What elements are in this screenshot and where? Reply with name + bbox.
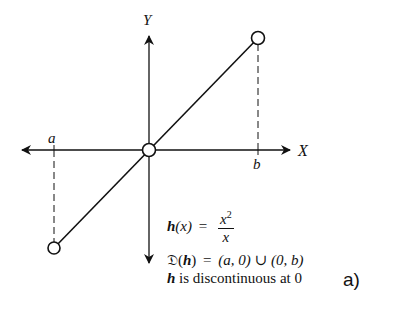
domain-symbol: 𝔇 — [167, 252, 178, 268]
x-axis-label: X — [298, 143, 308, 159]
domain-interval-2: (0, b) — [271, 252, 304, 268]
statement-function-name: h — [167, 270, 175, 286]
domain-equals: = — [203, 252, 211, 268]
exponent: 2 — [227, 209, 232, 220]
fraction: x2 x — [218, 210, 234, 245]
tick-label-a: a — [48, 131, 56, 146]
open-circle-left — [48, 242, 60, 254]
fraction-denominator: x — [218, 229, 234, 245]
equals-sign: = — [199, 218, 207, 234]
domain-statement: 𝔇(h) = (a, 0) ∪ (0, b) — [167, 253, 303, 268]
tick-label-b: b — [253, 157, 261, 172]
open-circle-right — [252, 32, 265, 45]
part-label: a) — [343, 269, 360, 291]
statement-text: is discontinuous at 0 — [179, 270, 302, 286]
discontinuity-statement: h is discontinuous at 0 — [167, 271, 302, 286]
domain-interval-1: (a, 0) — [218, 252, 251, 268]
union-symbol: ∪ — [255, 252, 268, 268]
fraction-numerator: x2 — [218, 210, 234, 229]
open-circle-origin — [143, 144, 156, 157]
function-definition: h(x) = x2 x — [167, 210, 234, 245]
function-argument: (x) — [175, 218, 192, 234]
y-axis-label: Y — [143, 13, 151, 28]
